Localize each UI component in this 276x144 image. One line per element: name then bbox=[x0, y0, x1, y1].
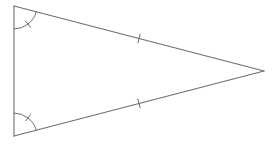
angle-arc-top-left bbox=[14, 12, 36, 29]
angle-arc-bottom-left bbox=[14, 113, 36, 130]
equal-angle-marks bbox=[14, 12, 36, 130]
angle-arc-tick-top-left bbox=[26, 21, 31, 27]
isosceles-triangle-diagram bbox=[0, 0, 276, 144]
equal-side-marks bbox=[138, 34, 140, 108]
angle-arc-tick-bottom-left bbox=[26, 115, 31, 121]
triangle bbox=[14, 6, 264, 136]
